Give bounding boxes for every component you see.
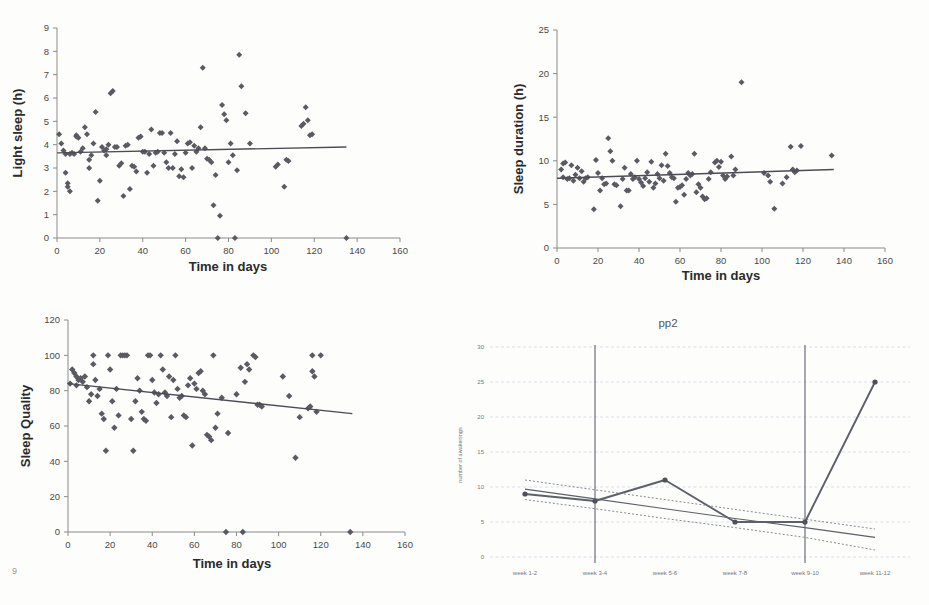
data-point xyxy=(109,398,115,404)
x-tick-label: 100 xyxy=(754,255,770,266)
data-point xyxy=(82,124,88,130)
y-tick-label: 15 xyxy=(538,112,549,123)
data-point xyxy=(189,442,195,448)
data-point xyxy=(662,477,667,482)
data-point xyxy=(157,352,163,358)
data-point xyxy=(92,377,98,383)
data-point xyxy=(153,400,159,406)
data-point xyxy=(281,184,287,190)
x-tick-group: week 1-2week 3-4week 5-6week 7-8week 9-1… xyxy=(512,570,891,576)
data-point xyxy=(579,168,585,174)
data-point xyxy=(716,164,722,170)
data-point xyxy=(180,174,186,180)
x-tick-label: 160 xyxy=(397,539,413,550)
x-tick-label: week 11-12 xyxy=(859,570,891,576)
y-tick-label: 20 xyxy=(49,491,60,502)
y-tick-label: 25 xyxy=(477,379,484,385)
data-point xyxy=(63,170,69,176)
data-point xyxy=(597,187,603,193)
y-tick-label: 5 xyxy=(544,199,549,210)
y-tick-label: 8 xyxy=(44,46,49,57)
data-point xyxy=(219,102,225,108)
light-sleep-svg: 0123456789 020406080100120140160 Time in… xyxy=(0,0,465,300)
data-point xyxy=(103,448,109,454)
data-point xyxy=(620,176,626,182)
confidence-band-line xyxy=(525,500,875,550)
data-point xyxy=(739,79,745,85)
data-point xyxy=(86,165,92,171)
data-point xyxy=(683,176,689,182)
pp2-svg: pp2 051015202530 week 1-2week 3-4week 5-… xyxy=(448,305,929,605)
x-tick-group: 020406080100120140160 xyxy=(54,238,408,256)
data-point xyxy=(240,529,246,535)
data-point xyxy=(644,169,650,175)
data-point xyxy=(591,206,597,212)
data-point xyxy=(681,192,687,198)
x-tick-label: 140 xyxy=(349,245,365,256)
data-point xyxy=(234,167,240,173)
y-axis-title: Sleep duration (h) xyxy=(511,84,526,195)
x-axis-title: Time in days xyxy=(193,556,272,571)
y-tick-label: 7 xyxy=(44,69,49,80)
data-point xyxy=(58,141,64,147)
data-point xyxy=(212,425,218,431)
y-tick-label: 80 xyxy=(49,385,60,396)
y-tick-label: 5 xyxy=(481,519,485,525)
y-tick-label: 6 xyxy=(44,92,49,103)
data-point xyxy=(236,52,242,58)
x-tick-label: week 9-10 xyxy=(790,570,819,576)
divider-group xyxy=(595,345,805,563)
x-tick-label: 0 xyxy=(54,245,59,256)
data-point xyxy=(65,180,71,186)
x-tick-label: 120 xyxy=(795,255,811,266)
data-point xyxy=(139,409,145,415)
y-tick-label: 1 xyxy=(44,209,49,220)
data-point xyxy=(292,455,298,461)
data-point xyxy=(149,377,155,383)
data-point xyxy=(232,235,238,241)
x-tick-label: 120 xyxy=(313,539,329,550)
data-point xyxy=(728,153,734,159)
data-point xyxy=(189,165,195,171)
y-axis-title: Light sleep (h) xyxy=(10,89,25,178)
y-axis-title: Sleep Quality xyxy=(18,384,33,467)
data-point xyxy=(174,386,180,392)
x-tick-label: 40 xyxy=(147,539,158,550)
y-tick-label: 0 xyxy=(55,526,60,537)
data-point xyxy=(280,373,286,379)
data-point xyxy=(130,448,136,454)
y-tick-label: 0 xyxy=(544,242,549,253)
x-tick-label: 120 xyxy=(306,245,322,256)
data-point xyxy=(634,158,640,164)
y-tick-label: 9 xyxy=(44,22,49,33)
x-tick-label: 40 xyxy=(137,245,148,256)
y-tick-label: 20 xyxy=(477,414,484,420)
data-point xyxy=(226,159,232,165)
data-point xyxy=(659,162,665,168)
data-point xyxy=(575,165,581,171)
x-tick-label: 0 xyxy=(554,255,559,266)
data-point xyxy=(247,141,253,147)
data-point xyxy=(238,365,244,371)
x-tick-label: 20 xyxy=(105,539,116,550)
x-tick-label: 20 xyxy=(95,245,106,256)
data-point xyxy=(558,167,564,173)
y-tick-label: 3 xyxy=(44,162,49,173)
y-tick-group: 0123456789 xyxy=(44,22,57,243)
x-tick-label: week 7-8 xyxy=(722,570,748,576)
trend-line xyxy=(525,489,875,537)
y-tick-label: 60 xyxy=(49,420,60,431)
x-tick-label: 60 xyxy=(189,539,200,550)
data-point xyxy=(111,425,117,431)
y-tick-label: 120 xyxy=(44,314,60,325)
y-tick-label: 40 xyxy=(49,456,60,467)
x-tick-label: 140 xyxy=(355,539,371,550)
data-point xyxy=(609,158,615,164)
data-point xyxy=(107,366,113,372)
data-point xyxy=(150,163,156,169)
data-point xyxy=(144,170,150,176)
data-point xyxy=(88,391,94,397)
data-point xyxy=(115,412,121,418)
data-point xyxy=(178,166,184,172)
data-point xyxy=(242,379,248,385)
